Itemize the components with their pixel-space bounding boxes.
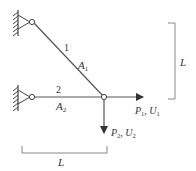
upper-pin-joint-icon (29, 19, 34, 24)
lower-pin-joint-icon (29, 94, 34, 99)
vertical-dimension-label: L (179, 56, 186, 68)
bar-2-number-label: 2 (56, 84, 61, 95)
vertical-dimension-bracket (168, 23, 175, 99)
bar-1 (33, 22, 104, 97)
free-node-joint-icon (101, 94, 106, 99)
load-vertical-label: P2, U2 (110, 127, 136, 139)
load-horizontal-label: P1, U1 (134, 105, 160, 117)
lower-wall-support-icon (13, 85, 30, 111)
horizontal-dimension-bracket (22, 146, 107, 153)
bar-1-area-label: A1 (77, 59, 89, 73)
horizontal-dimension-label: L (57, 156, 64, 168)
truss-diagram: 1 A1 2 A2 P1, U1 P2, U2 L L (0, 0, 196, 171)
bar-2-area-label: A2 (55, 100, 67, 114)
bar-1-number-label: 1 (64, 42, 69, 53)
upper-wall-support-icon (13, 10, 30, 36)
